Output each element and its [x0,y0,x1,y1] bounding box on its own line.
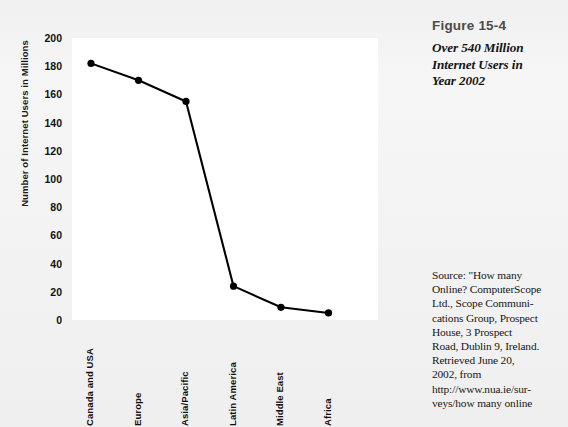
y-axis-tick-label: 80 [50,201,62,213]
source-note-line: Source: "How many [432,268,568,282]
caption-column: Figure 15-4 Over 540 MillionInternet Use… [432,0,568,427]
data-point-markers [87,60,332,317]
source-note-line: http://www.nua.ie/sur- [432,382,568,396]
x-axis-tick-label: Africa [322,398,333,426]
figure-title-line: Internet Users in [432,57,568,74]
y-axis-tick-label: 180 [44,60,62,72]
data-point [87,60,94,67]
source-note: Source: "How manyOnline? ComputerScopeLt… [432,268,568,410]
data-point [277,304,284,311]
figure-page: Number of Internet Users in Millions 020… [0,0,568,427]
source-note-line: Retrieved June 20, [432,353,568,367]
data-point [135,77,142,84]
x-axis-tick-labels: Canada and USAEuropeAsia/PacificLatin Am… [72,326,378,426]
y-axis-tick-label: 0 [56,314,62,326]
source-note-line: House, 3 Prospect [432,325,568,339]
y-axis-tick-label: 60 [50,229,62,241]
y-axis-tick-label: 160 [44,88,62,100]
chart-figure: Number of Internet Users in Millions 020… [0,0,400,427]
source-note-line: Ltd., Scope Communi- [432,296,568,310]
source-note-line: cations Group, Prospect [432,311,568,325]
plot-area [72,38,378,320]
figure-title-line: Year 2002 [432,73,568,90]
source-note-line: Online? ComputerScope [432,282,568,296]
x-axis-tick-label: Middle East [274,372,285,426]
data-point [230,283,237,290]
y-axis-tick-label: 20 [50,286,62,298]
y-axis-tick-labels: 020406080100120140160180200 [0,38,66,320]
source-note-line: 2002, from [432,367,568,381]
figure-title: Over 540 MillionInternet Users inYear 20… [432,40,568,90]
x-axis-tick-label: Canada and USA [84,348,95,426]
y-axis-tick-label: 100 [44,173,62,185]
y-axis-tick-label: 200 [44,32,62,44]
y-axis-tick-label: 140 [44,117,62,129]
y-axis-tick-label: 120 [44,145,62,157]
line-chart-svg [72,38,378,320]
data-series-line [91,63,329,313]
source-note-line: veys/how many online [432,396,568,410]
source-note-line: Road, Dublin 9, Ireland. [432,339,568,353]
figure-number: Figure 15-4 [432,18,506,33]
x-axis-tick-label: Latin America [227,362,238,426]
figure-title-line: Over 540 Million [432,40,568,57]
x-axis-tick-label: Asia/Pacific [179,371,190,426]
data-point [182,98,189,105]
y-axis-tick-label: 40 [50,258,62,270]
x-axis-tick-label: Europe [132,393,143,426]
data-point [325,309,332,316]
